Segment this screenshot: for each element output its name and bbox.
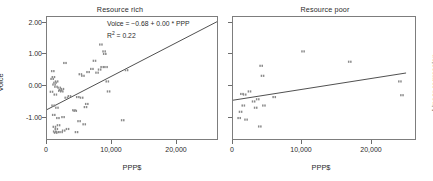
regression-annotation-left: Voice = −0.68 + 0.00 * PPP R2 = 0.22: [107, 19, 190, 40]
data-point: [63, 62, 67, 64]
data-point: [259, 65, 263, 67]
data-point: [76, 96, 80, 98]
data-point: [105, 80, 109, 82]
x-tick-label: 20,000: [165, 146, 186, 153]
data-point: [54, 128, 58, 130]
r-squared-value: = 0.22: [117, 32, 136, 39]
y-axis-title-left: Voice: [0, 73, 5, 91]
data-point: [61, 116, 65, 118]
regression-equation-left: Voice = −0.68 + 0.00 * PPP: [107, 19, 190, 29]
data-point: [237, 117, 241, 119]
x-axis-title-right: PPP$: [312, 163, 331, 172]
data-point: [272, 96, 276, 98]
data-point: [80, 97, 84, 99]
data-point: [103, 53, 107, 55]
data-point: [52, 83, 56, 85]
x-tick-mark: [176, 140, 177, 144]
data-point: [85, 103, 89, 105]
y-tick-label: 1.00: [28, 50, 42, 57]
scatter-canvas-right: [233, 17, 415, 139]
data-point: [68, 95, 72, 97]
panel-title-left: Resource rich: [22, 5, 218, 14]
data-point: [54, 93, 58, 95]
data-point: [100, 66, 104, 68]
data-point: [125, 69, 129, 71]
x-tick-mark: [371, 140, 372, 144]
y-tick-label: -1.00: [26, 114, 42, 121]
panel-resource-rich: Resource rich 2.00 1.00 0.00 -1.00 Voice…: [0, 0, 222, 181]
data-point: [262, 104, 266, 106]
y-tick-label: 0.00: [28, 82, 42, 89]
data-point: [244, 119, 248, 121]
data-point: [398, 80, 402, 82]
data-point: [54, 86, 58, 88]
data-point: [256, 98, 260, 100]
figure-two-panel-scatter: Resource rich 2.00 1.00 0.00 -1.00 Voice…: [0, 0, 433, 181]
data-point: [57, 124, 61, 126]
x-tick-mark: [111, 140, 112, 144]
data-point: [52, 114, 56, 116]
y-axis-ticks-left: 2.00 1.00 0.00 -1.00: [12, 0, 42, 181]
data-point: [53, 126, 57, 128]
data-point: [248, 90, 252, 92]
x-tick-mark: [301, 140, 302, 144]
data-point: [348, 61, 352, 63]
data-point: [75, 131, 79, 133]
data-point: [93, 60, 97, 62]
x-tick-label: 20,000: [360, 146, 381, 153]
data-point: [254, 107, 258, 109]
data-point: [301, 50, 305, 52]
data-point: [52, 76, 56, 78]
data-point: [121, 119, 125, 121]
data-point: [400, 94, 404, 96]
data-point: [241, 104, 245, 106]
data-point: [104, 66, 108, 68]
x-tick-label: 0: [44, 146, 48, 153]
data-point: [107, 90, 111, 92]
regression-line: [233, 73, 406, 100]
x-tick-mark: [232, 140, 233, 144]
data-point: [51, 70, 55, 72]
data-point: [90, 68, 94, 70]
data-point: [98, 68, 102, 70]
data-point: [95, 72, 99, 74]
data-point: [102, 50, 106, 52]
plot-area-right: [232, 16, 416, 140]
data-point: [66, 128, 70, 130]
panel-title-right: Resource poor: [230, 5, 420, 14]
r-squared-left: R2 = 0.22: [107, 29, 190, 41]
x-tick-label: 10,000: [290, 146, 311, 153]
data-point: [61, 88, 65, 90]
data-point: [81, 75, 85, 77]
data-point: [55, 107, 59, 109]
data-point: [50, 91, 54, 93]
y-tick-label: 2.00: [28, 19, 42, 26]
data-point: [82, 123, 86, 125]
data-point: [243, 93, 247, 95]
x-tick-mark: [46, 140, 47, 144]
data-point: [56, 117, 60, 119]
data-point: [252, 100, 256, 102]
x-tick-label: 10,000: [100, 146, 121, 153]
data-point: [239, 111, 243, 113]
data-point: [77, 120, 81, 122]
data-point: [258, 125, 262, 127]
data-point: [261, 75, 265, 77]
r-squared-exponent: 2: [112, 30, 115, 36]
data-point: [99, 43, 103, 45]
data-point: [86, 71, 90, 73]
x-axis-title-left: PPP$: [123, 163, 142, 172]
x-tick-label: 0: [230, 146, 234, 153]
panel-resource-poor: Resource poor Voice = −0.38 + 0.00 * PPP…: [222, 0, 418, 181]
data-point: [50, 78, 54, 80]
data-point: [64, 97, 68, 99]
data-point: [57, 87, 61, 89]
data-point: [62, 129, 66, 131]
data-point: [84, 106, 88, 108]
